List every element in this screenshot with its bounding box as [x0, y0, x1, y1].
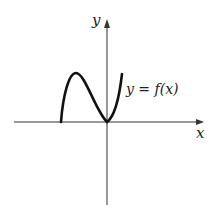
y-axis-label: y [92, 13, 100, 28]
curve-label: y = f(x) [126, 82, 179, 96]
graph-canvas [0, 0, 218, 208]
curve-f [61, 73, 122, 122]
x-axis-label: x [196, 126, 204, 141]
graph-figure: y x y = f(x) [0, 0, 218, 208]
y-axis-arrow-icon [104, 19, 110, 28]
